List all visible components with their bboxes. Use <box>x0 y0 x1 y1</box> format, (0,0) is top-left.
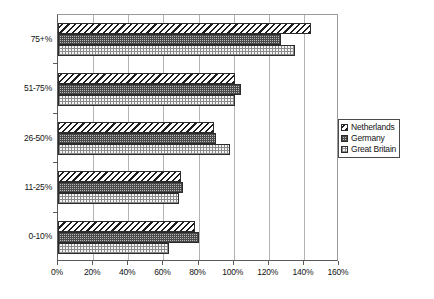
x-axis-label: 160% <box>328 267 349 277</box>
bar-fill <box>58 84 241 95</box>
bar[interactable] <box>58 34 281 45</box>
legend-swatch-great-britain <box>341 146 348 153</box>
x-axis-tick <box>162 261 163 265</box>
bar[interactable] <box>58 45 295 56</box>
x-axis-tick <box>303 261 304 265</box>
legend-label-germany: Germany <box>351 134 385 143</box>
legend-swatch-netherlands <box>341 124 348 131</box>
y-axis-label: 51-75% <box>24 83 52 93</box>
y-axis-tick <box>53 63 57 64</box>
bar-fill <box>58 144 230 155</box>
bar[interactable] <box>58 84 241 95</box>
x-axis-tick <box>338 261 339 265</box>
x-axis-label: 140% <box>292 267 313 277</box>
bar-fill <box>58 171 181 182</box>
bar[interactable] <box>58 73 235 84</box>
x-axis-tick <box>268 261 269 265</box>
bar-fill <box>58 182 183 193</box>
x-axis-label: 100% <box>222 267 243 277</box>
bar-fill <box>58 243 169 254</box>
legend-swatch-germany <box>341 135 348 142</box>
x-axis-label: 80% <box>189 267 205 277</box>
x-axis-tick <box>233 261 234 265</box>
bar[interactable] <box>58 23 311 34</box>
bar-fill <box>58 73 235 84</box>
bar[interactable] <box>58 144 230 155</box>
y-axis-tick <box>53 113 57 114</box>
bar-fill <box>58 122 214 133</box>
x-axis-label: 20% <box>84 267 100 277</box>
legend: Netherlands Germany Great Britain <box>338 119 400 158</box>
bar-group <box>58 114 337 163</box>
y-axis-label: 11-25% <box>25 182 52 192</box>
bar[interactable] <box>58 243 169 254</box>
legend-item-netherlands[interactable]: Netherlands <box>341 122 396 133</box>
bar-fill <box>58 221 195 232</box>
y-axis-label: 0-10% <box>28 231 52 241</box>
bar[interactable] <box>58 122 214 133</box>
bar-fill <box>58 45 295 56</box>
x-axis-label: 0% <box>51 267 63 277</box>
bar[interactable] <box>58 182 183 193</box>
bar[interactable] <box>58 171 181 182</box>
bar-group <box>58 213 337 262</box>
bar-fill <box>58 95 235 106</box>
bar-fill <box>58 34 281 45</box>
x-axis-tick <box>198 261 199 265</box>
x-axis-label: 120% <box>257 267 278 277</box>
legend-label-great-britain: Great Britain <box>351 145 396 154</box>
x-axis-label: 60% <box>154 267 170 277</box>
bar-fill <box>58 232 199 243</box>
y-axis-tick <box>53 162 57 163</box>
bar-chart: 75+%51-75%26-50%11-25%0-10% 0%20%40%60%8… <box>0 0 434 299</box>
y-axis-tick <box>53 212 57 213</box>
y-axis-label: 26-50% <box>24 133 52 143</box>
legend-item-germany[interactable]: Germany <box>341 133 396 144</box>
bar-group <box>58 15 337 64</box>
x-axis-tick <box>127 261 128 265</box>
y-axis-label: 75+% <box>31 34 52 44</box>
bar[interactable] <box>58 232 199 243</box>
bar[interactable] <box>58 193 179 204</box>
x-axis-label: 40% <box>119 267 135 277</box>
x-axis-tick <box>92 261 93 265</box>
bar-fill <box>58 133 216 144</box>
bar-group <box>58 64 337 113</box>
plot-area <box>57 14 338 261</box>
bar[interactable] <box>58 95 235 106</box>
x-axis-tick <box>57 261 58 265</box>
legend-item-great-britain[interactable]: Great Britain <box>341 144 396 155</box>
bar[interactable] <box>58 221 195 232</box>
bar-fill <box>58 193 179 204</box>
bar-group <box>58 163 337 212</box>
legend-label-netherlands: Netherlands <box>351 123 395 132</box>
bar-fill <box>58 23 311 34</box>
bar[interactable] <box>58 133 216 144</box>
